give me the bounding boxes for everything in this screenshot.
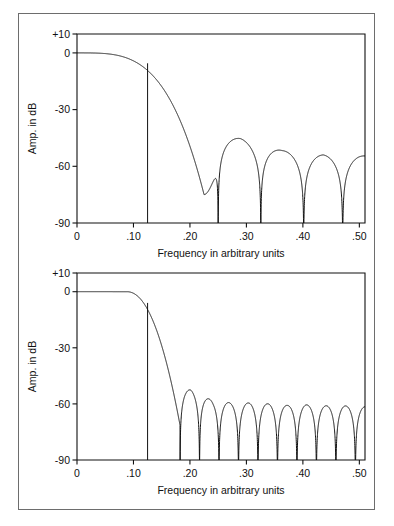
chart-top-svg: +100-30-60-900.10.20.30.40.50Frequency i… <box>19 14 376 264</box>
y-axis-title: Amp. in dB <box>26 341 38 392</box>
x-tick-label: .20 <box>183 230 198 242</box>
x-axis-ticks: 0.10.20.30.40.50 <box>74 223 367 242</box>
figure-root: +100-30-60-900.10.20.30.40.50Frequency i… <box>0 0 394 526</box>
chart-axes <box>77 273 365 460</box>
figure-outer-frame: +100-30-60-900.10.20.30.40.50Frequency i… <box>18 13 375 510</box>
x-tick-label: .20 <box>183 467 198 479</box>
axis-frame <box>77 273 365 460</box>
chart-panel-top: +100-30-60-900.10.20.30.40.50Frequency i… <box>19 14 376 264</box>
chart-bottom-svg: +100-30-60-900.10.20.30.40.50Frequency i… <box>19 264 376 511</box>
y-tick-label: -90 <box>55 217 70 229</box>
y-axis-title: Amp. in dB <box>26 103 38 154</box>
y-axis-ticks: +100-30-60-90 <box>52 267 77 466</box>
x-tick-label: .50 <box>352 230 367 242</box>
y-axis-ticks: +100-30-60-90 <box>52 28 77 229</box>
chart-panel-bottom: +100-30-60-900.10.20.30.40.50Frequency i… <box>19 264 376 511</box>
x-tick-label: 0 <box>74 230 80 242</box>
y-tick-label: -30 <box>55 342 70 354</box>
x-tick-label: .10 <box>126 467 141 479</box>
y-tick-label: 0 <box>64 47 70 59</box>
x-tick-label: .30 <box>239 467 254 479</box>
x-axis-ticks: 0.10.20.30.40.50 <box>74 460 367 479</box>
y-tick-label: -60 <box>55 398 70 410</box>
chart-axes <box>77 34 365 223</box>
x-tick-label: .40 <box>296 230 311 242</box>
response-curve <box>77 53 365 223</box>
y-tick-label: -90 <box>55 454 70 466</box>
y-tick-label: 0 <box>64 285 70 297</box>
x-tick-label: 0 <box>74 467 80 479</box>
y-tick-label: -60 <box>55 160 70 172</box>
x-axis-title: Frequency in arbitrary units <box>157 247 284 259</box>
x-tick-label: .10 <box>126 230 141 242</box>
y-tick-label: +10 <box>52 28 70 40</box>
y-tick-label: -30 <box>55 103 70 115</box>
x-axis-title: Frequency in arbitrary units <box>157 484 284 496</box>
x-tick-label: .40 <box>296 467 311 479</box>
axis-frame <box>77 34 365 223</box>
response-curve <box>77 292 365 460</box>
x-tick-label: .30 <box>239 230 254 242</box>
x-tick-label: .50 <box>352 467 367 479</box>
y-tick-label: +10 <box>52 267 70 279</box>
